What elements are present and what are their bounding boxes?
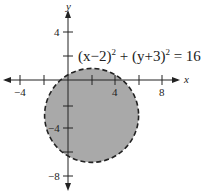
y-tick-label-neg4: −4 [48, 123, 60, 134]
x-tick-label-neg4: −4 [14, 87, 26, 98]
x-tick-label-4: 4 [112, 87, 118, 98]
eq-plus: + [116, 48, 132, 64]
circle-equation: (x−2)2 + (y+3)2 = 16 [78, 47, 201, 65]
eq-x-term: (x−2) [78, 48, 111, 64]
eq-rhs: = 16 [170, 48, 201, 64]
y-axis-arrow-down [65, 183, 71, 191]
x-axis-label: x [184, 74, 189, 85]
y-tick-label-neg8: −8 [48, 171, 60, 182]
x-axis-arrow-left [3, 77, 11, 83]
graph-canvas [0, 0, 208, 196]
x-tick-label-8: 8 [159, 87, 165, 98]
x-axis-arrow-right [172, 77, 180, 83]
y-tick-label-4: 4 [54, 27, 60, 38]
y-axis-label: y [66, 1, 71, 12]
eq-y-term: (y+3) [132, 48, 165, 64]
